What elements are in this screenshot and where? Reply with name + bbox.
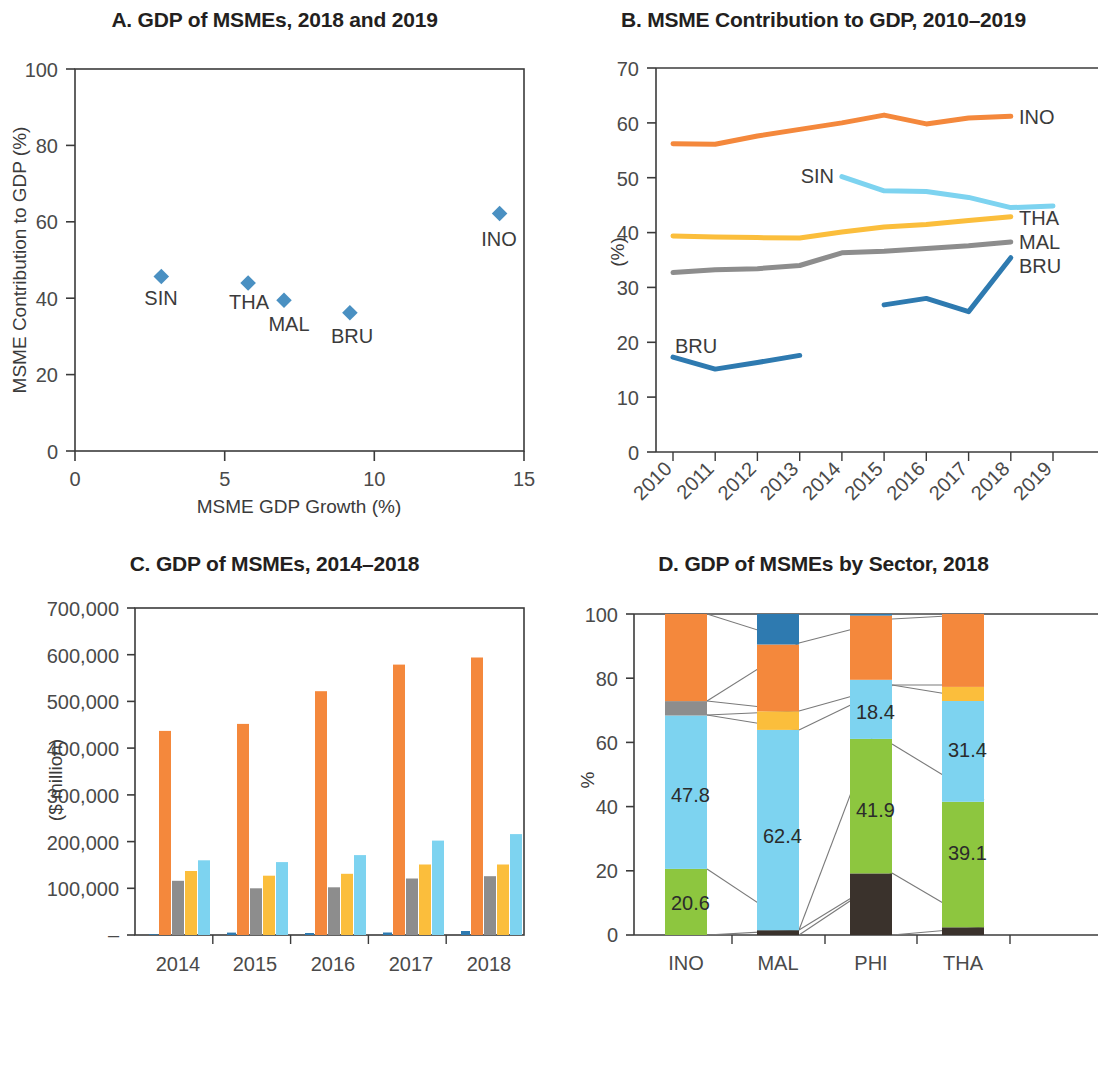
series-label-tha: THA xyxy=(1019,207,1060,229)
panel-c-x-axis: 2014 2015 2016 2017 2018 xyxy=(156,935,512,975)
series-label-bru-late: BRU xyxy=(1019,255,1061,277)
bar-2014-sin xyxy=(185,871,197,935)
bar-2016-sin xyxy=(341,874,353,935)
panel-a-xtick-15: 15 xyxy=(513,468,535,490)
panel-a-plot-frame xyxy=(75,69,524,451)
bar-2017-bru xyxy=(383,933,392,936)
panel-c-ylabel: ($ million) xyxy=(45,739,66,821)
bar-2014-ino xyxy=(159,731,171,935)
seg-mal-manufacturing xyxy=(757,645,799,712)
panel-b-ytick-50: 50 xyxy=(617,168,639,190)
bar-2015-ino xyxy=(237,724,249,935)
panel-d-ytick-80: 80 xyxy=(596,668,618,690)
series-label-sin: SIN xyxy=(801,165,834,187)
panel-d-stacked-bar: D. GDP of MSMEs by Sector, 2018 100 80 6… xyxy=(549,530,1098,1075)
panel-a-xlabel: MSME GDP Growth (%) xyxy=(197,496,401,517)
panel-a-xtick-0: 0 xyxy=(69,468,80,490)
series-label-ino: INO xyxy=(1019,106,1055,128)
panel-a-xtick-5: 5 xyxy=(219,468,230,490)
seg-phi-manufacturing xyxy=(850,616,892,680)
point-label-ino: INO xyxy=(481,228,517,250)
panel-a-point-labels: SIN THA MAL BRU INO xyxy=(144,228,516,347)
bar-2015-tha xyxy=(276,862,288,935)
panel-a-scatter: A. GDP of MSMEs, 2018 and 2019 100 80 60… xyxy=(0,0,549,520)
panel-d-title: D. GDP of MSMEs by Sector, 2018 xyxy=(549,552,1098,576)
line-ino xyxy=(673,115,1011,144)
seg-mal-construction xyxy=(757,711,799,730)
panel-a-x-axis: 0 5 10 15 xyxy=(69,451,535,490)
panel-a-y-axis: 100 80 60 40 20 0 xyxy=(25,59,75,463)
panel-b-series-lines xyxy=(673,115,1053,369)
stack-ino xyxy=(665,614,707,935)
panel-d-xtick-ino: INO xyxy=(668,952,704,974)
panel-b-ytick-10: 10 xyxy=(617,387,639,409)
panel-c-ytick-0: – xyxy=(108,924,120,946)
bar-2016-bru xyxy=(305,933,314,935)
dlabel-mal-wholesale: 62.4 xyxy=(763,825,802,847)
panel-c-ytick-600000: 600,000 xyxy=(47,645,119,667)
seg-phi-others xyxy=(850,873,892,935)
bar-2014-mal xyxy=(172,881,184,935)
point-mal xyxy=(276,292,292,308)
point-ino xyxy=(492,206,508,222)
panel-c-xtick-2016: 2016 xyxy=(311,953,356,975)
panel-b-ytick-70: 70 xyxy=(617,58,639,80)
panel-d-ytick-20: 20 xyxy=(596,860,618,882)
dlabel-ino-other-services: 20.6 xyxy=(671,892,710,914)
bar-2014-tha xyxy=(198,860,210,935)
line-tha xyxy=(673,217,1011,238)
dlabel-tha-other-services: 39.1 xyxy=(948,842,987,864)
point-label-bru: BRU xyxy=(331,325,373,347)
bar-2015-sin xyxy=(263,876,275,935)
panel-d-ylabel: % xyxy=(577,771,598,788)
seg-tha-manufacturing xyxy=(942,614,984,687)
panel-b-xtick-2017: 2017 xyxy=(924,457,971,504)
panel-c-ytick-500000: 500,000 xyxy=(47,691,119,713)
bar-2018-sin xyxy=(497,865,509,936)
panel-b-xtick-2019: 2019 xyxy=(1009,457,1056,504)
bar-2018-tha xyxy=(510,834,522,935)
seg-mal-agriculture xyxy=(757,614,799,645)
seg-tha-others xyxy=(942,927,984,935)
panel-b-xtick-2018: 2018 xyxy=(967,457,1014,504)
panel-b-ytick-60: 60 xyxy=(617,113,639,135)
panel-b-xtick-2012: 2012 xyxy=(713,457,760,504)
seg-ino-transportation xyxy=(665,701,707,715)
series-label-mal: MAL xyxy=(1019,231,1060,253)
panel-b-xtick-2015: 2015 xyxy=(840,457,887,504)
panel-c-xtick-2015: 2015 xyxy=(233,953,278,975)
bar-2017-tha xyxy=(432,841,444,935)
bar-2016-tha xyxy=(354,855,366,935)
panel-b-ytick-20: 20 xyxy=(617,332,639,354)
bar-2018-bru xyxy=(461,931,470,935)
bar-2016-mal xyxy=(328,887,340,935)
bar-2015-mal xyxy=(250,888,262,935)
dlabel-phi-wholesale: 18.4 xyxy=(856,701,895,723)
seg-ino-manufacturing xyxy=(665,614,707,701)
panel-b-ytick-0: 0 xyxy=(628,442,639,464)
line-sin xyxy=(842,177,1053,208)
bar-2017-mal xyxy=(406,879,418,936)
panel-a-ylabel: MSME Contribution to GDP (%) xyxy=(9,127,30,394)
point-sin xyxy=(154,269,170,285)
point-label-sin: SIN xyxy=(144,287,177,309)
panel-c-xtick-2018: 2018 xyxy=(467,953,512,975)
panel-a-points xyxy=(154,206,508,321)
panel-d-bars xyxy=(665,614,984,935)
panel-c-ytick-700000: 700,000 xyxy=(47,598,119,620)
panel-d-ytick-0: 0 xyxy=(607,924,618,946)
figure-root: A. GDP of MSMEs, 2018 and 2019 100 80 60… xyxy=(0,0,1098,1075)
panel-b-xtick-2013: 2013 xyxy=(756,457,803,504)
bar-2014-bru xyxy=(149,934,158,935)
dlabel-tha-wholesale: 31.4 xyxy=(948,739,987,761)
panel-d-xtick-mal: MAL xyxy=(757,952,798,974)
bar-2017-ino xyxy=(393,665,405,935)
panel-a-ytick-40: 40 xyxy=(36,288,58,310)
panel-c-xtick-2014: 2014 xyxy=(156,953,201,975)
panel-b-xtick-2010: 2010 xyxy=(629,457,676,504)
bar-2016-ino xyxy=(315,691,327,935)
panel-a-title: A. GDP of MSMEs, 2018 and 2019 xyxy=(0,8,549,32)
panel-c-svg: 700,000 600,000 500,000 400,000 300,000 … xyxy=(0,530,549,1010)
seg-phi-agriculture xyxy=(850,614,892,616)
panel-d-ytick-100: 100 xyxy=(585,604,618,626)
